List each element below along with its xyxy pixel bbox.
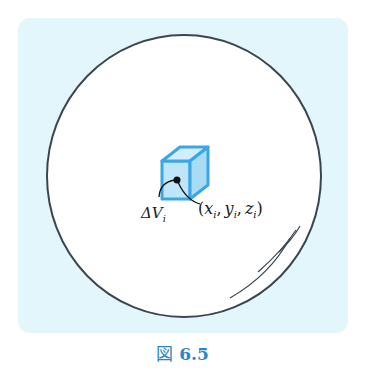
region-diagram: ΔVi (xi,yi,zi) [0,0,365,372]
caption-number: 6.5 [179,344,209,364]
point-coordinates-label: (xi,yi,zi) [198,199,263,220]
cube-icon [162,147,208,199]
volume-element-label: ΔVi [140,204,166,224]
figure-caption: 図6.5 [0,340,365,365]
caption-prefix: 図 [156,344,173,364]
